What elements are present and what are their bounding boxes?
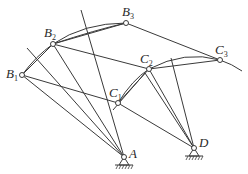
joint-b3	[124, 21, 129, 26]
label-b3: B3	[122, 4, 134, 21]
bisector-b2b3	[81, 10, 124, 157]
label-c2: C2	[140, 51, 153, 68]
bisector-c2c3	[171, 58, 194, 148]
joint-b2	[51, 42, 56, 47]
rocker-c1-d	[118, 103, 194, 148]
joint-b1	[20, 73, 25, 78]
label-c1: C1	[109, 85, 122, 102]
label-c3: C3	[215, 42, 228, 59]
c-locus-arc	[118, 57, 242, 103]
label-d: D	[198, 135, 209, 150]
coupler-b2-c2	[53, 44, 149, 69]
joint-c3	[218, 58, 223, 63]
rocker-c2-d	[149, 69, 194, 148]
bisector-c1c2	[145, 73, 194, 148]
bisector-b1b2	[27, 48, 124, 157]
crank-b2-a	[53, 44, 124, 157]
label-a: A	[128, 146, 137, 161]
linkage-diagram: B1 B2 B3 C1 C2 C3 A D	[0, 0, 248, 174]
label-b1: B1	[6, 66, 18, 83]
label-b2: B2	[44, 25, 56, 42]
